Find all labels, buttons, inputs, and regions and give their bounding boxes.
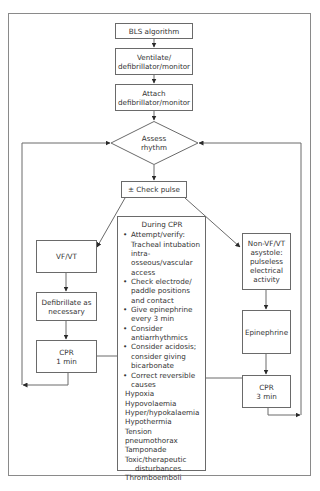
bullet-icon: • <box>123 324 127 333</box>
bullet-line: paddle positions <box>131 286 202 295</box>
bullet-icon: • <box>123 371 127 380</box>
cause-item: Hypovolaemia <box>122 399 202 408</box>
reversible-causes-list: Hypoxia Hypovolaemia Hyper/hypokalaemia … <box>122 389 202 482</box>
bls-label: BLS algorithm <box>129 27 179 36</box>
loop-cpr3-to-bottom <box>268 407 300 415</box>
bullet-line: Attempt/verify: <box>131 230 202 239</box>
cpr1-label-2: 1 min <box>56 357 76 366</box>
bullet-line: Tracheal intubation <box>131 240 202 249</box>
ventilate-box: Ventilate/ defibrillator/monitor <box>115 48 193 75</box>
bls-algorithm-box: BLS algorithm <box>115 23 193 39</box>
bullet-icon: • <box>123 305 127 314</box>
bullet-line: Consider acidosis; <box>131 342 202 351</box>
ventilate-label-1: Ventilate/ <box>137 53 171 62</box>
cpr3-label-1: CPR <box>259 383 273 392</box>
cpr-1min-box: CPR 1 min <box>36 340 97 373</box>
attach-label-1: Attach <box>142 89 165 98</box>
assess-label-2: rhythm <box>124 143 184 152</box>
during-cpr-title: During CPR <box>122 220 202 229</box>
attach-box: Attach defibrillator/monitor <box>115 84 193 111</box>
assess-label-1: Assess <box>124 134 184 143</box>
cause-item: Toxic/therapeutic <box>122 455 202 464</box>
bullet-line: antiarrhythmics <box>131 333 202 342</box>
cause-item: Tension pneumothorax <box>122 427 202 446</box>
bullet-line: access <box>131 268 202 277</box>
epinephrine-box: Epinephrine <box>242 310 291 354</box>
bullet-line: Correct reversible <box>131 371 202 380</box>
cpr-bullet-antiarrhythmics: • Consider antiarrhythmics <box>122 324 202 343</box>
cpr3-label-2: 3 min <box>256 392 276 401</box>
cpr-bullet-epinephrine: • Give epinephrine every 3 min <box>122 305 202 324</box>
vfvt-box: VF/VT <box>36 240 97 273</box>
bullet-icon: • <box>123 230 127 239</box>
cpr-bullet-reversible-causes: • Correct reversible causes <box>122 371 202 390</box>
bullet-line: consider giving <box>131 352 202 361</box>
bullet-line: bicarbonate <box>131 361 202 370</box>
cpr-bullet-electrode: • Check electrode/ paddle positions and … <box>122 277 202 305</box>
check-pulse-label: ± Check pulse <box>128 185 180 194</box>
ventilate-label-2: defibrillator/monitor <box>118 62 190 71</box>
attach-label-2: defibrillator/monitor <box>118 98 190 107</box>
epinephrine-label: Epinephrine <box>245 328 288 337</box>
cpr-3min-box: CPR 3 min <box>242 375 291 408</box>
during-cpr-box: During CPR • Attempt/verify: Tracheal in… <box>117 216 206 471</box>
bullet-line: Check electrode/ <box>131 277 202 286</box>
defibrillate-box: Defibrillate as necessary <box>36 292 97 321</box>
non-vf-vt-box: Non-VF/VT asystole: pulseless electrical… <box>242 233 291 290</box>
bullet-line: causes <box>131 380 202 389</box>
defibrillate-label-1: Defibrillate as <box>41 298 91 307</box>
bullet-line: Consider <box>131 324 202 333</box>
nonvf-label-3: pulseless <box>250 257 283 266</box>
bullet-line: Give epinephrine <box>131 305 202 314</box>
nonvf-label-5: activity <box>253 275 280 284</box>
defibrillate-label-2: necessary <box>48 307 84 316</box>
assess-rhythm-label: Assess rhythm <box>124 134 184 152</box>
cause-item: Hypoxia <box>122 389 202 398</box>
loop-cpr1-to-bottom <box>23 372 68 385</box>
check-pulse-box: ± Check pulse <box>121 181 187 198</box>
bullet-icon: • <box>123 342 127 351</box>
cause-item: disturbances <box>122 464 202 473</box>
cause-item: Hyper/hypokalaemia <box>122 408 202 417</box>
cause-item: Tamponade <box>122 445 202 454</box>
nonvf-label-4: electrical <box>250 266 283 275</box>
cause-item: Hypothermia <box>122 417 202 426</box>
nonvf-label-2: asystole: <box>250 248 282 257</box>
cpr-bullet-acidosis: • Consider acidosis; consider giving bic… <box>122 342 202 370</box>
vfvt-label: VF/VT <box>56 252 77 261</box>
bullet-line: and contact <box>131 296 202 305</box>
cpr-bullet-attempt: • Attempt/verify: Tracheal intubation in… <box>122 230 202 277</box>
bullet-icon: • <box>123 277 127 286</box>
cpr1-label-1: CPR <box>59 348 73 357</box>
bullet-line: every 3 min <box>131 314 202 323</box>
cause-item: Thromboemboli <box>122 473 202 482</box>
nonvf-label-1: Non-VF/VT <box>248 239 285 248</box>
bullet-line: intra-osseous/vascular <box>131 249 202 268</box>
